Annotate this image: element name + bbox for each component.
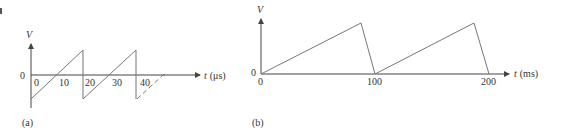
x-tick-b-200: 200 <box>481 76 496 87</box>
caption-b: (b) <box>252 117 264 129</box>
figure-canvas: V 0 0 10 20 30 40 t(μs) (a) V 0 0 100 20… <box>0 0 565 134</box>
x-tick-b-0: 0 <box>258 76 263 87</box>
y-axis-label-a: V <box>26 29 34 40</box>
y-axis-label-b: V <box>257 4 265 15</box>
x-tick-a-30: 30 <box>112 77 122 88</box>
x-tick-b-100: 100 <box>367 76 382 87</box>
sawtooth-trace-b <box>261 23 489 74</box>
corner-mark <box>0 8 2 14</box>
x-axis-label-a: t(μs) <box>204 70 226 82</box>
x-tick-a-20: 20 <box>85 77 95 88</box>
x-tick-a-10: 10 <box>59 77 69 88</box>
y-zero-label-a: 0 <box>20 70 25 81</box>
caption-a: (a) <box>22 117 33 129</box>
x-tick-a-40: 40 <box>140 77 150 88</box>
x-tick-a-0: 0 <box>34 77 39 88</box>
y-zero-label-b: 0 <box>251 67 256 78</box>
end-marker-a <box>163 74 165 76</box>
panel-a: V 0 0 10 20 30 40 t(μs) (a) <box>20 29 226 129</box>
x-axis-label-b: t(ms) <box>514 68 538 80</box>
panel-b: V 0 0 100 200 t(ms) (b) <box>251 4 538 129</box>
